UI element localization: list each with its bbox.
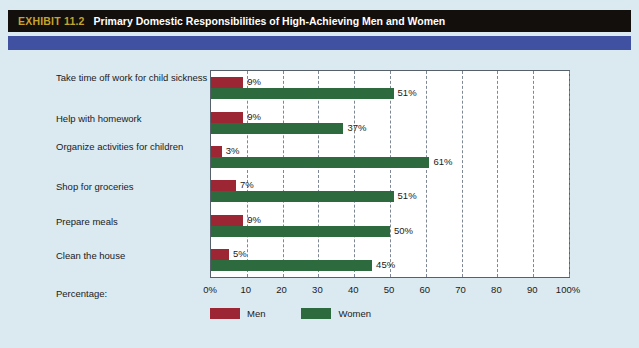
tick-label: 0% <box>203 284 217 295</box>
plot-area: 9%51%9%37%3%61%7%51%9%50%5%45% <box>210 70 570 278</box>
legend-label-men: Men <box>247 308 265 319</box>
category-label: Organize activities for children <box>56 141 216 153</box>
tick-label: 60 <box>420 284 431 295</box>
gridline-10 <box>247 71 248 277</box>
bar-men <box>211 112 243 123</box>
category-label: Help with homework <box>56 113 142 125</box>
bar-women <box>211 88 394 99</box>
bar-value-label: 3% <box>226 145 240 156</box>
category-label: Clean the house <box>56 250 125 262</box>
bar-value-label: 9% <box>247 111 261 122</box>
bar-value-label: 5% <box>233 248 247 259</box>
tick-label: 100% <box>556 284 580 295</box>
legend-item-men: Men <box>210 308 265 319</box>
exhibit-title-bar: EXHIBIT 11.2 Primary Domestic Responsibi… <box>8 10 631 32</box>
bar-men <box>211 249 229 260</box>
category-axis-labels: Take time off work for child sicknessHel… <box>56 70 206 278</box>
bar-group: 5%45% <box>211 249 569 271</box>
bar-value-label: 51% <box>398 87 417 98</box>
gridline-90 <box>533 71 534 277</box>
bar-women <box>211 157 429 168</box>
bar-group: 9%50% <box>211 215 569 237</box>
bar-group: 7%51% <box>211 180 569 202</box>
bar-group: 3%61% <box>211 146 569 168</box>
gridline-20 <box>283 71 284 277</box>
exhibit-number: EXHIBIT 11.2 <box>8 15 85 27</box>
bar-men <box>211 77 243 88</box>
bar-women <box>211 226 390 237</box>
category-label: Prepare meals <box>56 216 118 228</box>
tick-label: 30 <box>312 284 323 295</box>
bar-value-label: 51% <box>398 190 417 201</box>
category-label: Shop for groceries <box>56 181 134 193</box>
legend-swatch-men <box>210 308 240 319</box>
bar-women <box>211 191 394 202</box>
legend-item-women: Women <box>301 308 371 319</box>
bar-value-label: 7% <box>240 179 254 190</box>
gridline-80 <box>497 71 498 277</box>
chart-figure: Take time off work for child sicknessHel… <box>0 56 639 348</box>
bar-value-label: 61% <box>433 156 452 167</box>
bar-value-label: 37% <box>347 122 366 133</box>
tick-label: 50 <box>384 284 395 295</box>
tick-label: 20 <box>276 284 287 295</box>
tick-label: 40 <box>348 284 359 295</box>
gridline-40 <box>354 71 355 277</box>
gridline-30 <box>318 71 319 277</box>
chart-legend: Men Women <box>210 308 371 319</box>
legend-swatch-women <box>301 308 331 319</box>
tick-label: 70 <box>455 284 466 295</box>
bar-value-label: 45% <box>376 259 395 270</box>
bar-women <box>211 123 343 134</box>
accent-band <box>8 36 631 50</box>
category-label: Take time off work for child sickness <box>56 72 216 84</box>
bar-value-label: 50% <box>394 225 413 236</box>
exhibit-title: Primary Domestic Responsibilities of Hig… <box>85 15 446 27</box>
bar-group: 9%37% <box>211 112 569 134</box>
tick-label: 10 <box>241 284 252 295</box>
bar-value-label: 9% <box>247 76 261 87</box>
value-axis-title: Percentage: <box>56 288 107 299</box>
gridline-100 <box>569 71 570 277</box>
tick-label: 90 <box>527 284 538 295</box>
gridline-70 <box>462 71 463 277</box>
bar-men <box>211 215 243 226</box>
gridline-50 <box>390 71 391 277</box>
bar-men <box>211 146 222 157</box>
tick-label: 80 <box>491 284 502 295</box>
bar-women <box>211 260 372 271</box>
bar-group: 9%51% <box>211 77 569 99</box>
gridline-60 <box>426 71 427 277</box>
bar-men <box>211 180 236 191</box>
bar-value-label: 9% <box>247 214 261 225</box>
legend-label-women: Women <box>338 308 371 319</box>
